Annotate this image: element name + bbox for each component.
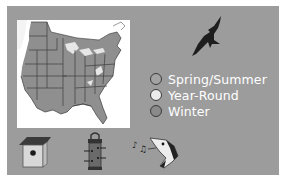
spring-summer-swatch-icon xyxy=(150,73,162,85)
range-map xyxy=(17,20,130,128)
svg-text:♫: ♫ xyxy=(139,144,147,154)
legend-item-spring-summer: Spring/Summer xyxy=(150,71,267,87)
year-round-swatch-icon xyxy=(150,89,162,101)
legend-label: Spring/Summer xyxy=(168,72,267,87)
legend-item-year-round: Year-Round xyxy=(150,87,267,103)
feeder-icon xyxy=(82,131,108,173)
legend: Spring/Summer Year-Round Winter xyxy=(150,71,267,119)
swallow-silhouette-icon xyxy=(188,14,228,56)
birdhouse-icon xyxy=(17,135,53,169)
svg-text:♪: ♪ xyxy=(132,140,138,150)
legend-label: Year-Round xyxy=(168,88,239,103)
song-icon: ♪ ♫ xyxy=(130,134,186,170)
winter-swatch-icon xyxy=(150,105,162,117)
legend-item-winter: Winter xyxy=(150,103,267,119)
legend-label: Winter xyxy=(168,104,210,119)
us-map-icon xyxy=(17,20,130,128)
